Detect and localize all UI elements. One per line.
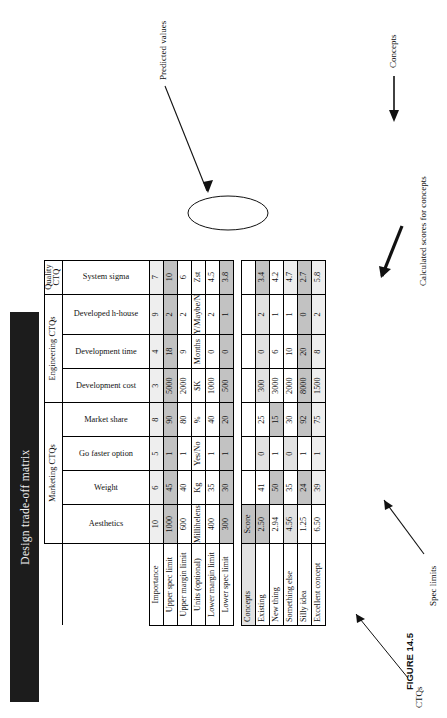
spec-row: Upper spec limit100045190500018210 [163,260,177,625]
concept-value: 1 [283,294,297,335]
spec-cell: 1 [219,294,233,335]
concept-name: New thing [269,544,283,626]
concept-value: 1 [269,437,283,471]
concept-value: 300 [255,369,269,403]
concept-value: 0 [255,437,269,471]
spec-cell: 600 [177,505,191,544]
spec-cell: 2 [163,294,177,335]
ctq-header-stub [62,544,149,626]
concepts-header-spacer [241,369,255,403]
spec-cell: 6 [149,471,163,505]
spec-cell: 0 [205,335,219,369]
concept-row: Silly idea1.252419280002002.7 [297,260,311,625]
concept-value: 1 [269,294,283,335]
ctq-column-aesthetics: Aesthetics [62,505,149,544]
concept-name: Excellent concept [311,544,325,626]
concepts-header-row: ConceptsScore [241,260,255,625]
figure-caption: FIGURE 14.5 [404,633,415,690]
concept-value: 35 [283,471,297,505]
ctq-column-development-time: Development time [62,335,149,369]
concept-score: 2.94 [269,505,283,544]
concept-value: 92 [297,403,311,437]
spec-cell: 6 [177,260,191,294]
concept-value: 2 [311,294,325,335]
spec-row-label: Upper margin limit [177,544,191,626]
spec-cell: 2 [177,294,191,335]
spec-row-label: Lower spec limit [219,544,233,626]
concept-score: 2.50 [255,505,269,544]
spec-cell: 2 [205,294,219,335]
ctq-column-label: Development cost [76,381,136,390]
concepts-header-label: Concepts [241,544,255,626]
concept-row: New thing2.94501153000614.2 [269,260,283,625]
concept-value: 2 [255,294,269,335]
concept-value: 0 [297,294,311,335]
ctq-column-market-share: Market share [62,403,149,437]
concepts-header-spacer [241,437,255,471]
ctq-column-development-cost: Development cost [62,369,149,403]
spec-cell: 45 [163,471,177,505]
concepts-header-spacer [241,403,255,437]
column-group-engineering-ctqs: Engineering CTQs [45,294,63,403]
concept-value: 4.7 [283,260,297,294]
spec-cell: 5000 [163,369,177,403]
ctq-column-label: Development time [75,347,137,356]
rotated-figure-canvas: Design trade-off matrix CTQs Spec limits… [0,0,447,718]
separator-cell [233,260,241,294]
column-group-quality-ctq: Quality CTQ [45,260,63,294]
spec-cell: 3.8 [219,260,233,294]
concept-value: 30 [283,403,297,437]
concept-value: 8 [311,335,325,369]
concept-value: 6 [269,335,283,369]
spec-cell: 9 [177,335,191,369]
design-tradeoff-matrix-table: Marketing CTQsEngineering CTQsQuality CT… [44,260,326,626]
separator-cell [233,544,241,626]
concept-value: 15 [269,403,283,437]
separator-cell [233,294,241,335]
spec-cell: 20 [219,403,233,437]
spec-cell: 8 [149,403,163,437]
concept-value: 3.4 [255,260,269,294]
column-group-marketing-ctqs: Marketing CTQs [45,403,63,544]
spec-cell: 18 [163,335,177,369]
concept-value: 1 [297,437,311,471]
concept-value: 24 [297,471,311,505]
group-header-stub [45,544,63,626]
spec-cell: Months [191,335,205,369]
ctq-column-label: Weight [94,483,118,492]
spec-cell: 7 [149,260,163,294]
spec-row-label: Upper spec limit [163,544,177,626]
spec-cell: 10 [149,505,163,544]
spec-cell: 1000 [205,369,219,403]
spec-row: Lower margin limit400351401000024.5 [205,260,219,625]
spec-row: Upper margin limit600401802000926 [177,260,191,625]
spec-cell: 1 [205,437,219,471]
spec-cell: 2000 [177,369,191,403]
spec-cell: 40 [177,471,191,505]
concept-row: Existing2.5041025300023.4 [255,260,269,625]
spec-cell: Kg [191,471,205,505]
concept-value: 2.7 [297,260,311,294]
annotation-concepts: Concepts [388,35,398,69]
concept-value: 41 [255,471,269,505]
concept-row: Something else4.563503020001014.7 [283,260,297,625]
ctq-column-go-faster-option: Go faster option [62,437,149,471]
concept-value: 2000 [283,369,297,403]
concept-value: 0 [283,437,297,471]
concept-value: 25 [255,403,269,437]
separator-cell [233,505,241,544]
spec-row-label: Units (optional) [191,544,205,626]
spec-cell: 1000 [163,505,177,544]
separator-cell [233,335,241,369]
spec-cell: % [191,403,205,437]
concept-value: 10 [283,335,297,369]
concept-value: 20 [297,335,311,369]
annotation-predicted-values: Predicted values [158,21,168,80]
spec-cell: 1 [177,437,191,471]
annotation-ctqs: CTQs [414,686,424,708]
score-header-label: Score [241,505,255,544]
separator-cell [233,369,241,403]
concept-score: 6.50 [311,505,325,544]
concept-value: 3000 [269,369,283,403]
spec-cell: 1 [163,437,177,471]
